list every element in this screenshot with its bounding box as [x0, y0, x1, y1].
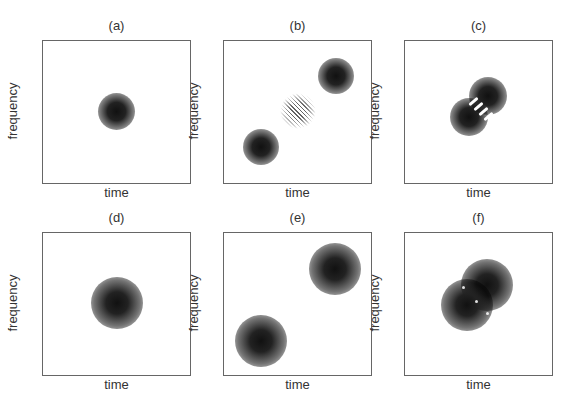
panel-f: (f) frequency time	[362, 210, 552, 407]
plot-area	[404, 40, 553, 184]
x-axis-label: time	[223, 185, 372, 200]
panel-title: (b)	[223, 18, 372, 33]
panel-c: (c) frequency time	[362, 18, 552, 218]
interference-spot	[462, 286, 465, 289]
panel-title: (e)	[223, 210, 372, 225]
plot-area	[223, 232, 372, 376]
panel-b: (b) frequency time	[181, 18, 371, 218]
atom-high	[309, 243, 361, 295]
y-axis-label: frequency	[5, 82, 20, 139]
panel-e: (e) frequency time	[181, 210, 371, 407]
panel-d: (d) frequency time	[0, 210, 190, 407]
atom	[98, 93, 135, 130]
y-axis-label: frequency	[186, 274, 201, 331]
atom-low	[243, 129, 279, 165]
panel-title: (a)	[42, 18, 191, 33]
plot-area	[42, 40, 191, 184]
plot-area	[404, 232, 553, 376]
panel-title: (d)	[42, 210, 191, 225]
y-axis-label: frequency	[186, 82, 201, 139]
panel-title: (c)	[404, 18, 553, 33]
plot-area	[42, 232, 191, 376]
interference-spot	[475, 300, 478, 303]
atom-low	[235, 315, 287, 367]
atom	[91, 277, 143, 329]
panel-title: (f)	[404, 210, 553, 225]
x-axis-label: time	[404, 185, 553, 200]
cross-term	[280, 93, 316, 129]
panel-a: (a) frequency time	[0, 18, 190, 218]
interference-spot	[486, 312, 489, 315]
y-axis-label: frequency	[367, 82, 382, 139]
plot-area	[223, 40, 372, 184]
atom-high	[318, 58, 354, 94]
y-axis-label: frequency	[367, 274, 382, 331]
y-axis-label: frequency	[5, 274, 20, 331]
x-axis-label: time	[42, 185, 191, 200]
x-axis-label: time	[223, 377, 372, 392]
x-axis-label: time	[42, 377, 191, 392]
atom-low	[441, 279, 493, 331]
x-axis-label: time	[404, 377, 553, 392]
